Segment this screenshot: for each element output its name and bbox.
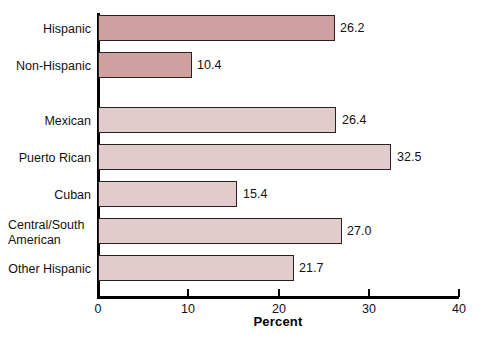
- x-tick-0: [97, 289, 99, 297]
- bar-hispanic: [98, 15, 335, 41]
- x-tick-30: [368, 289, 370, 297]
- x-tick-40: [458, 289, 460, 297]
- plot-area: 0 10 20 30 40 26.2 10.4 26.4 32.5 15.4 2…: [97, 13, 459, 299]
- bar-value-mexican: 26.4: [342, 107, 366, 133]
- bar-cuban: [98, 181, 237, 207]
- category-label-other-hispanic: Other Hispanic: [0, 262, 91, 277]
- category-label-cuban: Cuban: [0, 188, 91, 203]
- bar-value-hispanic: 26.2: [340, 15, 364, 41]
- category-label-non-hispanic: Non-Hispanic: [0, 59, 91, 74]
- bar-non-hispanic: [98, 52, 192, 78]
- bar-value-central-south-american: 27.0: [347, 218, 371, 244]
- bar-other-hispanic: [98, 255, 294, 281]
- bar-puerto-rican: [98, 144, 391, 170]
- bar-value-cuban: 15.4: [243, 181, 267, 207]
- x-tick-10: [187, 289, 189, 297]
- bar-value-other-hispanic: 21.7: [299, 255, 323, 281]
- category-label-mexican: Mexican: [0, 114, 91, 129]
- x-axis-title: Percent: [97, 314, 459, 329]
- x-tick-20: [278, 289, 280, 297]
- bar-mexican: [98, 107, 336, 133]
- category-label-hispanic: Hispanic: [0, 22, 91, 37]
- category-label-puerto-rican: Puerto Rican: [0, 151, 91, 166]
- bar-chart: Hispanic Non-Hispanic Mexican Puerto Ric…: [0, 0, 481, 349]
- bar-central-south-american: [98, 218, 342, 244]
- bar-value-puerto-rican: 32.5: [397, 144, 421, 170]
- bar-value-non-hispanic: 10.4: [197, 52, 221, 78]
- category-label-central-south-american: Central/South American: [8, 218, 94, 247]
